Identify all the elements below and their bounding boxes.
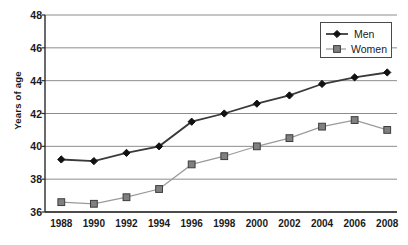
data-point[interactable] — [58, 156, 65, 163]
line-chart: Years of age 36384042444648 198819901992… — [0, 0, 408, 245]
legend-label: Women — [351, 43, 387, 55]
diamond-marker-icon — [325, 28, 349, 40]
series-men — [58, 69, 391, 165]
chart-legend[interactable]: MenWomen — [320, 22, 392, 58]
data-point[interactable] — [384, 69, 391, 76]
legend-item-men[interactable]: Men — [325, 26, 387, 41]
data-point[interactable] — [58, 199, 65, 206]
data-point[interactable] — [253, 100, 260, 107]
data-point[interactable] — [156, 186, 163, 193]
data-point[interactable] — [384, 127, 391, 134]
data-point[interactable] — [319, 123, 326, 130]
data-point[interactable] — [90, 200, 97, 207]
data-point[interactable] — [318, 80, 325, 87]
data-point[interactable] — [221, 153, 228, 160]
series-line-women — [61, 120, 387, 204]
series-women — [58, 117, 391, 208]
data-point[interactable] — [351, 117, 358, 124]
data-point[interactable] — [221, 110, 228, 117]
data-point[interactable] — [253, 143, 260, 150]
data-point[interactable] — [286, 92, 293, 99]
data-point[interactable] — [188, 161, 195, 168]
data-point[interactable] — [286, 135, 293, 142]
data-point[interactable] — [90, 158, 97, 165]
square-marker-icon — [325, 43, 346, 55]
data-point[interactable] — [123, 194, 130, 201]
data-point[interactable] — [351, 74, 358, 81]
data-point[interactable] — [123, 149, 130, 156]
legend-item-women[interactable]: Women — [325, 41, 387, 56]
legend-label: Men — [354, 28, 374, 40]
